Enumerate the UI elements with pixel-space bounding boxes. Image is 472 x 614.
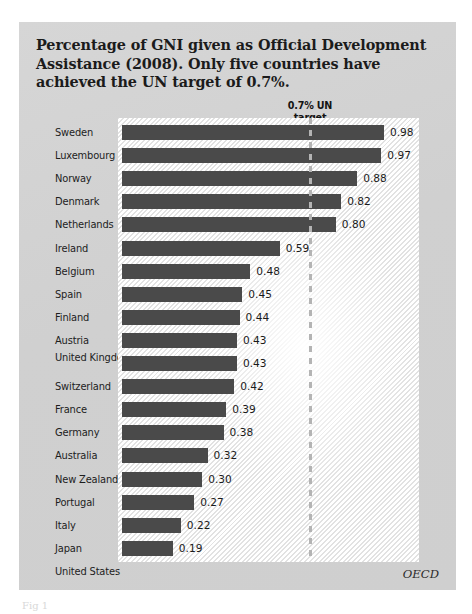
bar-value-label: 0.32 (214, 448, 238, 463)
bar-value-label: 0.42 (240, 379, 264, 394)
bar-value-label: 0.44 (246, 310, 270, 325)
bar-row: 0.88 (118, 171, 419, 186)
chart-title: Percentage of GNI given as Official Deve… (36, 36, 431, 92)
bar-row: 0.45 (118, 287, 419, 302)
un-target-reference-line (309, 118, 312, 562)
bar (122, 448, 208, 463)
bar (122, 541, 173, 556)
bar (122, 402, 226, 417)
bar-value-label: 0.59 (286, 241, 310, 256)
bar-row: 0.82 (118, 194, 419, 209)
figure-panel: Percentage of GNI given as Official Deve… (19, 22, 456, 590)
bar-value-label: 0.45 (248, 287, 272, 302)
bar (122, 171, 357, 186)
bar-row: 0.39 (118, 402, 419, 417)
bar-value-label: 0.82 (347, 194, 371, 209)
bar-value-label: 0.80 (342, 217, 366, 232)
bar-row: 0.80 (118, 217, 419, 232)
bar (122, 264, 250, 279)
bar (122, 287, 242, 302)
bar (122, 310, 240, 325)
figure-caption: Fig 1 (22, 600, 48, 612)
bar-row: 0.27 (118, 495, 419, 510)
un-target-label-line1: 0.7% UN (255, 100, 365, 112)
bar (122, 333, 237, 348)
bar (122, 495, 194, 510)
plot-area: 0.980.970.880.820.800.590.480.450.440.43… (118, 118, 419, 562)
country-label: United States (55, 566, 133, 577)
bar-value-label: 0.19 (179, 541, 203, 556)
bar-row: 0.42 (118, 379, 419, 394)
bar-row: 0.48 (118, 264, 419, 279)
bar-row: 0.43 (118, 356, 419, 371)
bar-value-label: 0.27 (200, 495, 224, 510)
bar (122, 356, 237, 371)
bar-row: 0.38 (118, 425, 419, 440)
bar (122, 217, 336, 232)
bar (122, 425, 224, 440)
bar-value-label: 0.48 (256, 264, 280, 279)
bar (122, 379, 234, 394)
bar-value-label: 0.97 (387, 148, 411, 163)
bar-row: 0.97 (118, 148, 419, 163)
bar-row: 0.43 (118, 333, 419, 348)
bar-row: 0.22 (118, 518, 419, 533)
bar (122, 518, 181, 533)
bar-row: 0.59 (118, 241, 419, 256)
bar-value-label: 0.39 (232, 402, 256, 417)
bar (122, 148, 381, 163)
bar-value-label: 0.38 (230, 425, 254, 440)
bar (122, 125, 384, 140)
bar-row: 0.44 (118, 310, 419, 325)
bar-value-label: 0.43 (243, 356, 267, 371)
bar-value-label: 0.30 (208, 472, 232, 487)
bar-value-label: 0.88 (363, 171, 387, 186)
bar-row: 0.32 (118, 448, 419, 463)
bar-row: 0.30 (118, 472, 419, 487)
bar-value-label: 0.43 (243, 333, 267, 348)
bar-row: 0.98 (118, 125, 419, 140)
bar-value-label: 0.98 (390, 125, 414, 140)
source-credit: OECD (403, 567, 439, 581)
bar (122, 241, 280, 256)
bar (122, 472, 202, 487)
bar-row: 0.19 (118, 541, 419, 556)
bar-value-label: 0.22 (187, 518, 211, 533)
